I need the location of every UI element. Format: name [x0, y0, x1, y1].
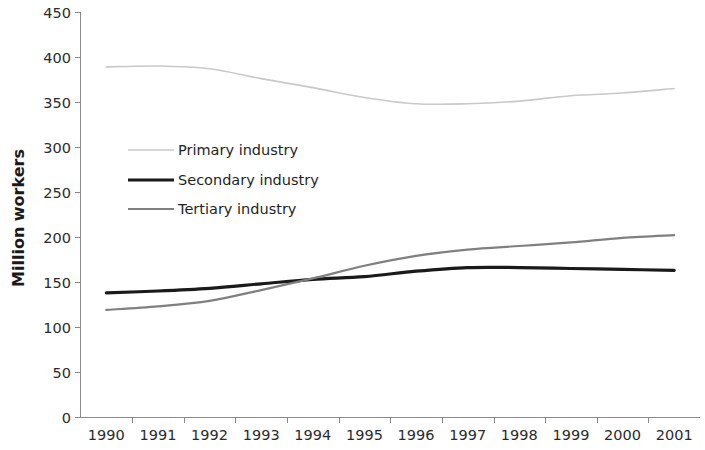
chart-legend: Primary industrySecondary industryTertia… — [128, 142, 319, 217]
y-axis-tick-label: 200 — [43, 230, 71, 246]
legend-label-1: Secondary industry — [178, 172, 319, 188]
y-axis-tick-label: 50 — [53, 365, 71, 381]
y-axis-tick-labels: 050100150200250300350400450 — [43, 5, 71, 426]
x-axis-tick-label: 1999 — [552, 427, 589, 443]
y-axis-tick-marks — [75, 13, 81, 418]
y-axis-title: Million workers — [9, 149, 28, 287]
y-axis-tick-label: 350 — [43, 95, 71, 111]
x-axis-tick-label: 1994 — [294, 427, 331, 443]
y-axis-tick-label: 250 — [43, 185, 71, 201]
x-axis-tick-label: 1990 — [88, 427, 125, 443]
x-axis-tick-label: 1993 — [243, 427, 280, 443]
legend-label-2: Tertiary industry — [177, 201, 297, 217]
y-axis-tick-label: 150 — [43, 275, 71, 291]
x-axis-tick-label: 1992 — [191, 427, 228, 443]
y-axis-tick-label: 100 — [43, 320, 71, 336]
y-axis-tick-label: 450 — [43, 5, 71, 21]
y-axis-tick-label: 0 — [62, 410, 71, 426]
line-chart: Million workers 050100150200250300350400… — [0, 0, 705, 450]
x-axis-tick-labels: 1990199119921993199419951996199719981999… — [88, 427, 693, 443]
series-line-0 — [106, 66, 674, 104]
x-axis-tick-label: 1997 — [449, 427, 486, 443]
y-axis-title-group: Million workers — [9, 149, 28, 287]
series-line-1 — [106, 267, 674, 293]
x-axis-tick-label: 1998 — [501, 427, 538, 443]
x-axis-tick-label: 1996 — [398, 427, 435, 443]
x-axis-tick-label: 2001 — [656, 427, 693, 443]
x-axis-tick-label: 1991 — [139, 427, 176, 443]
chart-container: Million workers 050100150200250300350400… — [0, 0, 705, 450]
x-axis-tick-label: 2000 — [604, 427, 641, 443]
y-axis-tick-label: 400 — [43, 50, 71, 66]
x-axis-tick-label: 1995 — [346, 427, 383, 443]
y-axis-tick-label: 300 — [43, 140, 71, 156]
x-axis-tick-marks — [133, 418, 649, 424]
legend-label-0: Primary industry — [178, 142, 298, 158]
